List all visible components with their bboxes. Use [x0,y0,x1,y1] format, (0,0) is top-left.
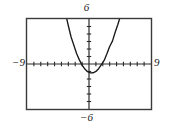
plot-area [0,0,173,127]
graph-figure: 6 −6 −9 9 [0,0,173,127]
